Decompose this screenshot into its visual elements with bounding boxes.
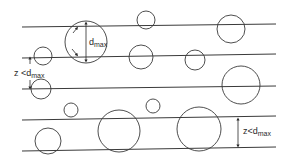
particle-circle-4 — [34, 47, 52, 65]
particle-circle-8 — [64, 103, 78, 117]
dmax-tick-lower — [72, 49, 77, 55]
particle-plane-diagram: dmax z <dmax z<dmax — [0, 0, 293, 163]
plane-line-3 — [22, 86, 276, 89]
particle-circle-12 — [146, 99, 160, 113]
particle-circle-3 — [217, 15, 245, 43]
particle-circle-5 — [129, 45, 153, 69]
particle-circle-13 — [177, 107, 221, 151]
dmax-label: dmax — [89, 37, 108, 48]
z-right-dimension: z<dmax — [238, 119, 272, 146]
dmax-tick-upper — [73, 28, 77, 33]
particles — [31, 11, 260, 154]
z-left-label: z <dmax — [14, 68, 45, 79]
particle-circle-2 — [137, 11, 155, 29]
plane-line-2 — [22, 54, 276, 58]
z-right-label: z<dmax — [243, 126, 272, 137]
z-left-dimension: z <dmax — [14, 58, 45, 88]
particle-circle-11 — [98, 110, 140, 152]
particle-circle-6 — [185, 50, 205, 70]
plane-line-1 — [22, 24, 276, 27]
particle-circle-9 — [222, 66, 260, 104]
plane-line-5 — [22, 147, 276, 151]
